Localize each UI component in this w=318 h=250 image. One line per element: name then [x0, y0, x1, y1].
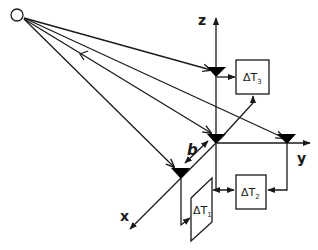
y-axis-label: y	[297, 150, 306, 166]
baseline-label: b	[187, 141, 198, 159]
ray-to-front-sensor	[24, 19, 174, 167]
origin-sensor-to-t2	[216, 144, 234, 190]
source-point-icon	[11, 9, 23, 21]
sensor-top-icon	[207, 67, 226, 77]
ray-to-top-sensor	[24, 18, 211, 70]
sensor-front-icon	[171, 168, 190, 179]
front-sensor-to-t1	[181, 179, 190, 225]
acoustic-sensor-array-diagram: z y x b ΔT3 ΔT2 ΔT1	[0, 0, 318, 250]
x-axis-label: x	[120, 208, 129, 224]
origin-to-t3	[220, 96, 253, 139]
ray-to-origin-sensor	[24, 19, 211, 133]
right-sensor-to-t2	[268, 144, 287, 190]
z-axis-label: z	[198, 12, 206, 28]
